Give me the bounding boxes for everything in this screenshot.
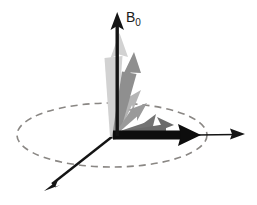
vector-diagram-figure: B0 <box>0 0 257 205</box>
b0-label-subscript: 0 <box>135 17 141 28</box>
b0-label-main: B <box>126 9 135 25</box>
diagram-canvas <box>0 0 257 205</box>
b0-label: B0 <box>126 10 141 28</box>
y-axis-front-left <box>44 136 113 191</box>
